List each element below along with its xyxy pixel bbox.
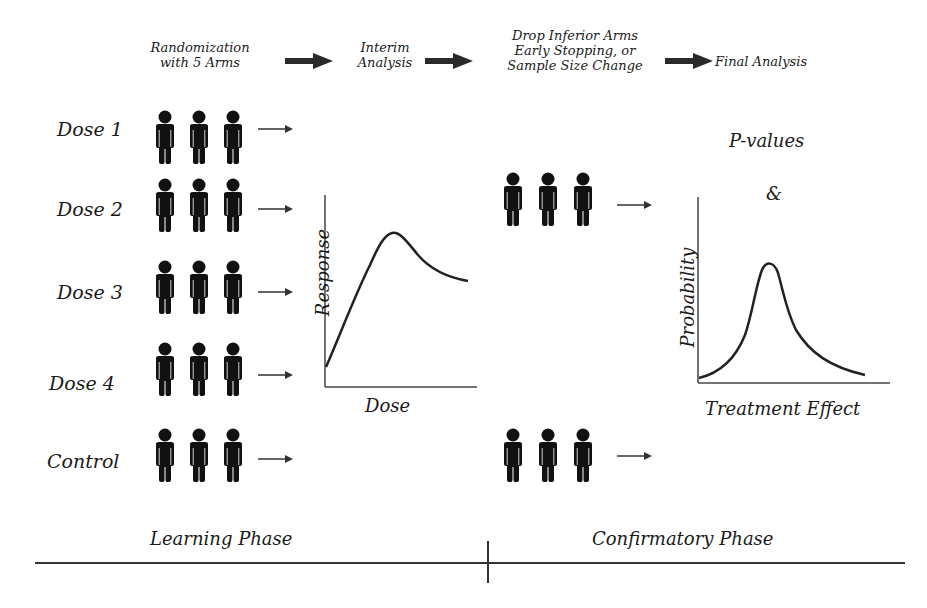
- people-group-confirmatory-dose: [500, 172, 600, 228]
- people-group-dose-3: [152, 260, 252, 316]
- people-group-dose-1: [152, 110, 252, 166]
- people-group-confirmatory-control: [500, 428, 600, 484]
- people-group-dose-2: [152, 178, 252, 234]
- step-label-line: Analysis: [345, 55, 425, 70]
- step-label-line: Sample Size Change: [485, 58, 665, 73]
- thin-arrow-icon: [258, 454, 294, 464]
- arm-label-dose-1: Dose 1: [57, 118, 123, 140]
- dose-response-curve: [326, 233, 468, 367]
- person-icon: [224, 111, 242, 165]
- person-icon: [190, 111, 208, 165]
- final-pvalues-label: P-values: [729, 130, 804, 151]
- step-final-analysis: Final Analysis: [715, 54, 845, 69]
- probability-chart: [690, 195, 900, 395]
- flow-arrow-icon: [285, 52, 335, 70]
- flow-arrow-icon: [665, 52, 715, 70]
- step-interim-analysis: Interim Analysis: [345, 40, 425, 70]
- phase-label-confirmatory: Confirmatory Phase: [592, 528, 774, 549]
- thin-arrow-icon: [258, 124, 294, 134]
- phase-divider-vertical: [487, 541, 489, 583]
- step-label-line: Randomization: [135, 40, 265, 55]
- people-group-control: [152, 428, 252, 484]
- arm-label-dose-3: Dose 3: [57, 281, 123, 303]
- thin-arrow-icon: [258, 370, 294, 380]
- person-icon: [156, 111, 174, 165]
- phase-divider-horizontal: [35, 562, 905, 564]
- step-label-line: Final Analysis: [715, 54, 845, 69]
- step-drop-inferior-arms: Drop Inferior Arms Early Stopping, or Sa…: [485, 28, 665, 73]
- arm-label-control: Control: [47, 450, 119, 472]
- flow-arrow-icon: [425, 52, 475, 70]
- probability-curve: [699, 264, 865, 378]
- thin-arrow-icon: [617, 451, 653, 461]
- chart-xlabel-dose: Dose: [365, 395, 410, 416]
- step-label-line: Drop Inferior Arms: [485, 28, 665, 43]
- arm-label-dose-4: Dose 4: [49, 372, 115, 394]
- arm-label-dose-2: Dose 2: [57, 198, 123, 220]
- phase-label-learning: Learning Phase: [150, 528, 292, 549]
- chart-ylabel-probability: Probability: [677, 238, 698, 358]
- step-randomization: Randomization with 5 Arms: [135, 40, 265, 70]
- step-label-line: Early Stopping, or: [485, 43, 665, 58]
- thin-arrow-icon: [258, 287, 294, 297]
- chart-xlabel-treatment-effect: Treatment Effect: [705, 398, 860, 419]
- people-group-dose-4: [152, 342, 252, 398]
- thin-arrow-icon: [258, 204, 294, 214]
- thin-arrow-icon: [617, 200, 653, 210]
- step-label-line: with 5 Arms: [135, 55, 265, 70]
- chart-ylabel-response: Response: [312, 223, 333, 323]
- step-label-line: Interim: [345, 40, 425, 55]
